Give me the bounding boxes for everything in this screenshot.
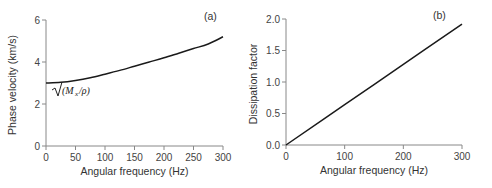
figure: 0246050100150200250300Angular frequency … [0,0,492,188]
x-tick-label: 0 [283,151,289,162]
data-line [286,24,462,145]
x-tick-label: 150 [126,152,143,163]
annotation-text-rest: /ρ) [78,85,91,97]
sqrt-icon [52,82,62,96]
x-tick-label: 50 [70,152,82,163]
x-tick-label: 200 [156,152,173,163]
panel-label: (b) [433,9,446,21]
y-tick-label: 0.5 [266,108,280,119]
y-tick-label: 2 [34,99,40,110]
x-tick-label: 300 [215,152,232,163]
chart-b: 0.00.51.01.52.00100200300Angular frequen… [247,9,471,176]
x-tick-label: 0 [43,152,49,163]
x-tick-label: 100 [97,152,114,163]
y-axis-label: Dissipation factor [247,43,259,124]
chart-a: 0246050100150200250300Angular frequency … [6,10,232,177]
sqrt-annotation: (Mx/ρ) [52,82,91,98]
x-axis-label: Angular frequency (Hz) [320,164,428,176]
y-tick-label: 0 [34,141,40,152]
y-tick-label: 4 [34,57,40,68]
x-tick-label: 200 [395,151,412,162]
x-axis-label: Angular frequency (Hz) [81,165,189,177]
y-tick-label: 0.0 [266,140,280,151]
data-line [46,37,223,83]
y-tick-label: 6 [34,15,40,26]
x-tick-label: 300 [454,151,471,162]
annotation-text: (M [62,85,74,97]
y-tick-label: 2.0 [266,14,280,25]
y-tick-label: 1.5 [266,45,280,56]
x-tick-label: 250 [185,152,202,163]
x-tick-label: 100 [336,151,353,162]
y-tick-label: 1.0 [266,77,280,88]
panel-label: (a) [204,10,217,22]
y-axis-label: Phase velocity (km/s) [6,35,18,135]
